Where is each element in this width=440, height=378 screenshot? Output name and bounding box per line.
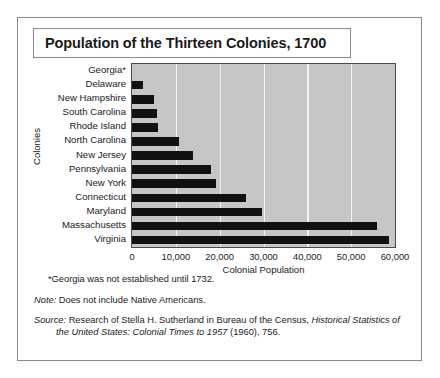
x-tick-30000: 30,000 — [249, 251, 278, 262]
y-tick-new-york: New York — [85, 178, 126, 188]
y-tick-pennsylvania: Pennsylvania — [69, 164, 126, 174]
note-label: Note: — [34, 295, 56, 305]
bar-row — [132, 148, 395, 162]
bar-new-york — [132, 179, 216, 188]
source-italic-2: the United States: Colonial Times to 195… — [56, 327, 228, 337]
plot-area — [131, 63, 396, 248]
chart-title-box: Population of the Thirteen Colonies, 170… — [33, 28, 351, 58]
bar-massachusetts — [132, 222, 377, 231]
bar-south-carolina — [132, 109, 157, 118]
bar-row — [132, 92, 395, 106]
page-title: Population of the Thirteen Colonies, 170… — [34, 35, 326, 51]
note-source: Source: Research of Stella H. Sutherland… — [34, 315, 409, 338]
bar-row — [132, 134, 395, 148]
chart-area: Colonies Georgia*DelawareNew HampshireSo… — [18, 63, 423, 263]
bar-row — [132, 163, 395, 177]
note-text: Does not include Native Americans. — [56, 295, 205, 305]
bar-rhode-island — [132, 123, 158, 132]
bar-connecticut — [132, 194, 246, 203]
note-general: Note: Does not include Native Americans. — [34, 295, 409, 307]
y-tick-new-jersey: New Jersey — [76, 150, 126, 160]
bar-row — [132, 205, 395, 219]
figure-frame: Population of the Thirteen Colonies, 170… — [17, 17, 422, 361]
source-text-2: (1960), 756. — [228, 327, 281, 337]
y-tick-new-hampshire: New Hampshire — [58, 93, 126, 103]
y-tick-south-carolina: South Carolina — [63, 107, 126, 117]
bar-row — [132, 120, 395, 134]
bar-row — [132, 177, 395, 191]
bar-virginia — [132, 236, 389, 245]
source-label: Source: — [34, 315, 66, 325]
x-tick-40000: 40,000 — [293, 251, 322, 262]
bar-row — [132, 233, 395, 247]
notes-block: *Georgia was not established until 1732.… — [34, 274, 409, 338]
y-tick-connecticut: Connecticut — [75, 192, 126, 202]
source-line-2: the United States: Colonial Times to 195… — [34, 327, 409, 339]
bar-row — [132, 191, 395, 205]
y-tick-georgia: Georgia* — [88, 65, 126, 75]
y-tick-north-carolina: North Carolina — [64, 135, 126, 145]
y-tick-rhode-island: Rhode Island — [69, 121, 126, 131]
bar-new-jersey — [132, 151, 193, 160]
bar-north-carolina — [132, 137, 179, 146]
x-axis-tick-labels: 010,00020,00030,00040,00050,00060,000 — [131, 249, 396, 265]
bar-delaware — [132, 81, 143, 90]
y-tick-virginia: Virginia — [94, 234, 126, 244]
x-tick-0: 0 — [129, 251, 134, 262]
y-tick-maryland: Maryland — [87, 206, 126, 216]
x-tick-20000: 20,000 — [205, 251, 234, 262]
note-georgia: *Georgia was not established until 1732. — [34, 274, 409, 286]
bar-maryland — [132, 208, 262, 217]
x-tick-50000: 50,000 — [337, 251, 366, 262]
bar-row — [132, 78, 395, 92]
y-tick-massachusetts: Massachusetts — [62, 220, 126, 230]
bar-row — [132, 64, 395, 78]
bar-new-hampshire — [132, 95, 154, 104]
source-italic-1: Historical Statistics of — [312, 315, 400, 325]
bar-row — [132, 106, 395, 120]
bar-pennsylvania — [132, 165, 211, 174]
gridline — [395, 64, 396, 247]
y-axis-tick-labels: Georgia*DelawareNew HampshireSouth Carol… — [38, 63, 130, 248]
bar-row — [132, 219, 395, 233]
source-text-1: Research of Stella H. Sutherland in Bure… — [66, 315, 311, 325]
x-tick-10000: 10,000 — [161, 251, 190, 262]
x-tick-60000: 60,000 — [381, 251, 410, 262]
y-tick-delaware: Delaware — [85, 79, 126, 89]
